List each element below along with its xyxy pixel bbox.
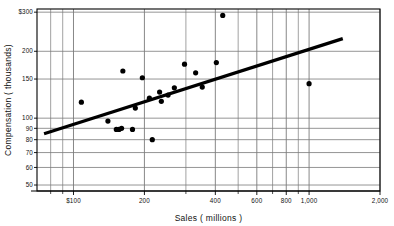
y-axis-tick-label: $300 — [18, 8, 33, 15]
data-point — [172, 85, 177, 90]
x-axis-tick-label: 2,000 — [372, 197, 389, 204]
data-point — [306, 81, 311, 86]
x-axis-tick-label: 800 — [281, 197, 292, 204]
data-point — [133, 105, 138, 110]
y-axis-tick-label: 50 — [26, 181, 34, 188]
data-point — [220, 13, 225, 18]
data-point — [120, 68, 125, 73]
data-point — [119, 126, 124, 131]
data-point — [140, 75, 145, 80]
x-axis-tick-label: 400 — [210, 197, 221, 204]
y-axis-tick-label: 60 — [26, 164, 34, 171]
y-axis-tick-label: 200 — [22, 47, 33, 54]
plot-svg: $3002001501009080706050$1002004006008001… — [0, 0, 394, 226]
y-axis-tick-label: 150 — [22, 75, 33, 82]
data-point — [214, 60, 219, 65]
y-axis-tick-label: 90 — [26, 125, 34, 132]
y-axis-tick-label: 100 — [22, 114, 33, 121]
data-point — [147, 96, 152, 101]
data-point — [182, 62, 187, 67]
data-point — [165, 92, 170, 97]
data-point — [193, 70, 198, 75]
data-point — [150, 137, 155, 142]
data-point — [79, 100, 84, 105]
data-point — [200, 84, 205, 89]
y-axis-tick-label: 70 — [26, 149, 34, 156]
y-axis-title: Compensation ( thousands) — [3, 44, 13, 156]
plot-background — [37, 9, 380, 191]
data-point — [157, 90, 162, 95]
data-point — [130, 127, 135, 132]
data-point — [159, 99, 164, 104]
scatter-chart: $3002001501009080706050$1002004006008001… — [0, 0, 394, 226]
x-axis-tick-label: 600 — [251, 197, 262, 204]
y-axis-tick-label: 80 — [26, 136, 34, 143]
x-axis-title: Sales ( millions ) — [175, 213, 243, 223]
data-point — [105, 118, 110, 123]
x-axis-tick-label: 1,000 — [301, 197, 318, 204]
x-axis-tick-label: $100 — [66, 197, 81, 204]
x-axis-tick-label: 200 — [139, 197, 150, 204]
